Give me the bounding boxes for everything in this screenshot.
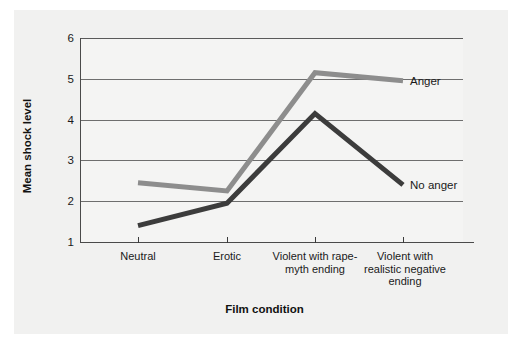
- series-label-no-anger: No anger: [410, 179, 457, 191]
- series-line-anger: [138, 73, 403, 191]
- series-label-anger: Anger: [410, 75, 441, 87]
- series-lines: [0, 0, 529, 351]
- chart-figure: 6 5 4 3 2 1 Neutral Erotic Violent with …: [0, 0, 529, 351]
